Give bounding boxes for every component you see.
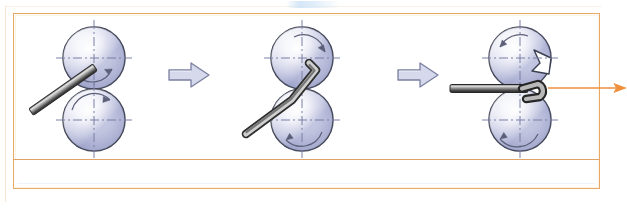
separator-2-arrow-icon bbox=[396, 60, 440, 90]
stage-2 bbox=[230, 14, 400, 159]
row-divider bbox=[13, 159, 600, 160]
output-arrow bbox=[548, 75, 627, 101]
output-arrow-icon bbox=[548, 75, 627, 101]
separator-2 bbox=[396, 60, 440, 90]
stage-2-drawing bbox=[230, 14, 400, 159]
caption-label bbox=[24, 165, 584, 185]
scan-artifact-text bbox=[286, 0, 340, 8]
separator-1-arrow-icon bbox=[167, 60, 211, 90]
figure-canvas bbox=[0, 0, 627, 210]
separator-1 bbox=[167, 60, 211, 90]
stage-1-lower-roller bbox=[56, 82, 132, 158]
outer-halo-left bbox=[5, 6, 6, 202]
